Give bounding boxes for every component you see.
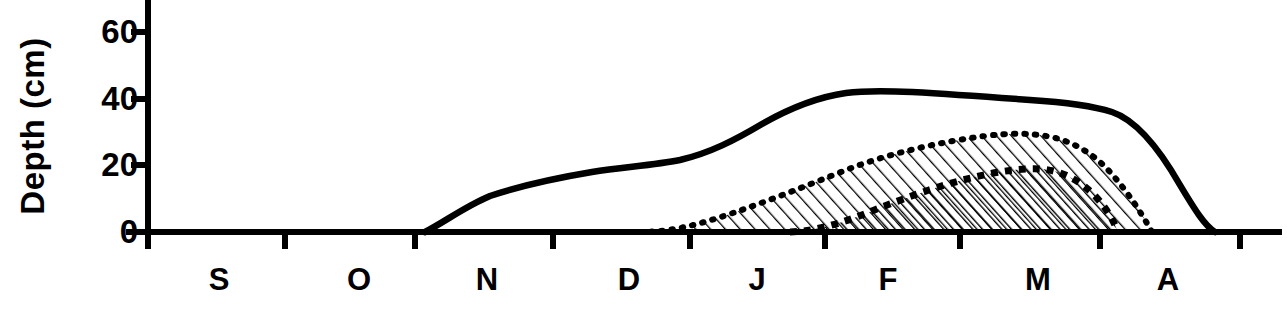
- plot-area: [0, 0, 1287, 312]
- y-axis-ticks: [126, 32, 148, 232]
- depth-chart-figure: Depth (cm) 60 40 20 0 S O N D J F M A: [0, 0, 1287, 312]
